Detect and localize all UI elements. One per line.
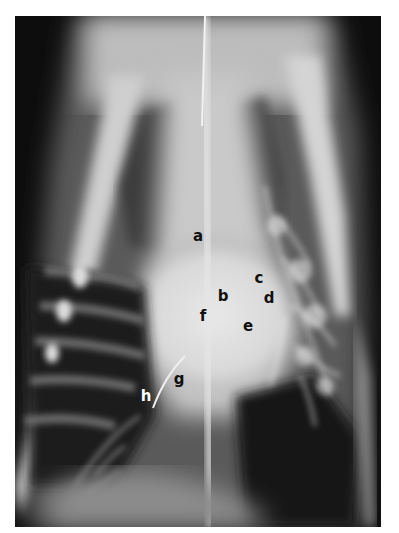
radiograph-image — [15, 16, 381, 527]
label-f: f — [200, 309, 207, 324]
label-e: e — [243, 319, 253, 334]
label-d: d — [264, 291, 275, 306]
label-a: a — [193, 229, 203, 244]
radiograph-anatomy — [15, 16, 381, 527]
label-b: b — [218, 289, 229, 304]
label-c: c — [255, 271, 264, 286]
label-h: h — [141, 389, 152, 404]
label-g: g — [174, 372, 185, 387]
